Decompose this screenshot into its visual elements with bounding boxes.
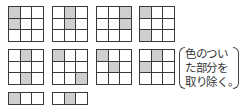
- empty-cell: [120, 50, 131, 61]
- empty-cell: [76, 62, 87, 73]
- grid-7: [96, 49, 132, 85]
- empty-cell: [152, 30, 163, 41]
- empty-cell: [32, 62, 43, 73]
- shaded-cell: [9, 93, 20, 104]
- empty-cell: [97, 73, 108, 84]
- empty-cell: [53, 73, 64, 84]
- shaded-cell: [120, 19, 131, 30]
- empty-cell: [32, 50, 43, 61]
- note-line-2: た部分を: [185, 61, 239, 75]
- empty-cell: [109, 30, 120, 41]
- shaded-cell: [152, 50, 163, 61]
- empty-cell: [120, 30, 131, 41]
- empty-cell: [120, 62, 131, 73]
- empty-cell: [163, 30, 174, 41]
- empty-cell: [97, 7, 108, 18]
- empty-cell: [163, 62, 174, 73]
- empty-cell: [21, 93, 32, 104]
- empty-cell: [53, 19, 64, 30]
- empty-cell: [163, 19, 174, 30]
- empty-cell: [32, 7, 43, 18]
- grid-1: [8, 6, 44, 42]
- empty-cell: [120, 73, 131, 84]
- shaded-cell: [65, 93, 76, 104]
- shaded-cell: [9, 7, 20, 18]
- empty-cell: [140, 50, 151, 61]
- empty-cell: [76, 30, 87, 41]
- grid-9: [8, 92, 44, 105]
- empty-cell: [32, 19, 43, 30]
- shaded-cell: [21, 73, 32, 84]
- shaded-cell: [76, 73, 87, 84]
- note-line-1: 色のつい: [185, 47, 239, 61]
- empty-cell: [65, 50, 76, 61]
- empty-cell: [9, 62, 20, 73]
- empty-cell: [9, 50, 20, 61]
- empty-cell: [65, 73, 76, 84]
- empty-cell: [76, 50, 87, 61]
- empty-cell: [97, 30, 108, 41]
- empty-cell: [76, 19, 87, 30]
- empty-cell: [53, 62, 64, 73]
- shaded-cell: [109, 62, 120, 73]
- grid-10: [52, 92, 88, 105]
- shaded-cell: [97, 50, 108, 61]
- right-parenthesis: [233, 47, 239, 89]
- empty-cell: [76, 7, 87, 18]
- empty-cell: [97, 19, 108, 30]
- grid-4: [139, 6, 175, 42]
- empty-cell: [32, 93, 43, 104]
- grid-2: [52, 6, 88, 42]
- shaded-cell: [53, 50, 64, 61]
- shaded-cell: [120, 7, 131, 18]
- empty-cell: [163, 50, 174, 61]
- shaded-cell: [21, 50, 32, 61]
- empty-cell: [109, 50, 120, 61]
- grid-6: [52, 49, 88, 85]
- empty-cell: [65, 30, 76, 41]
- empty-cell: [152, 7, 163, 18]
- empty-cell: [109, 73, 120, 84]
- empty-cell: [21, 19, 32, 30]
- empty-cell: [21, 7, 32, 18]
- empty-cell: [97, 62, 108, 73]
- empty-cell: [21, 62, 32, 73]
- empty-cell: [65, 62, 76, 73]
- empty-cell: [21, 30, 32, 41]
- empty-cell: [152, 62, 163, 73]
- empty-cell: [109, 19, 120, 30]
- grid-5: [8, 49, 44, 85]
- empty-cell: [53, 93, 64, 104]
- empty-cell: [140, 73, 151, 84]
- grid-3: [96, 6, 132, 42]
- note-line-3: 取り除く。: [185, 75, 239, 89]
- shaded-cell: [140, 30, 151, 41]
- empty-cell: [32, 30, 43, 41]
- shaded-cell: [140, 62, 151, 73]
- shaded-cell: [65, 19, 76, 30]
- shaded-cell: [140, 7, 151, 18]
- empty-cell: [9, 30, 20, 41]
- shaded-cell: [65, 7, 76, 18]
- empty-cell: [163, 7, 174, 18]
- empty-cell: [140, 19, 151, 30]
- empty-cell: [152, 73, 163, 84]
- empty-cell: [76, 93, 87, 104]
- empty-cell: [9, 73, 20, 84]
- grid-8: [139, 49, 175, 85]
- note-text: 色のつい た部分を 取り除く。: [185, 47, 239, 89]
- empty-cell: [32, 73, 43, 84]
- shaded-cell: [9, 19, 20, 30]
- empty-cell: [53, 30, 64, 41]
- instruction-note: 色のつい た部分を 取り除く。: [179, 47, 239, 89]
- empty-cell: [53, 7, 64, 18]
- empty-cell: [152, 19, 163, 30]
- empty-cell: [163, 73, 174, 84]
- empty-cell: [109, 7, 120, 18]
